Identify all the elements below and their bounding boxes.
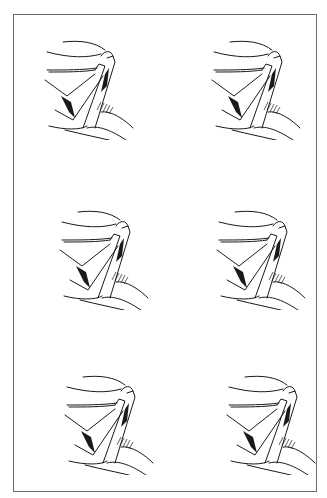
figure-panel-5 xyxy=(45,365,155,475)
figure-panel-6 xyxy=(205,365,315,475)
ring-drawing-icon xyxy=(192,30,302,140)
figure-panel-4 xyxy=(195,200,305,310)
figure-panel-2 xyxy=(190,30,300,140)
figure-panel-1 xyxy=(25,30,135,140)
ring-drawing-icon xyxy=(207,365,317,475)
ring-drawing-icon xyxy=(45,365,155,475)
ring-drawing-icon xyxy=(25,30,135,140)
figure-panel-3 xyxy=(40,200,150,310)
ring-drawing-icon xyxy=(40,200,150,310)
ring-drawing-icon xyxy=(197,200,307,310)
